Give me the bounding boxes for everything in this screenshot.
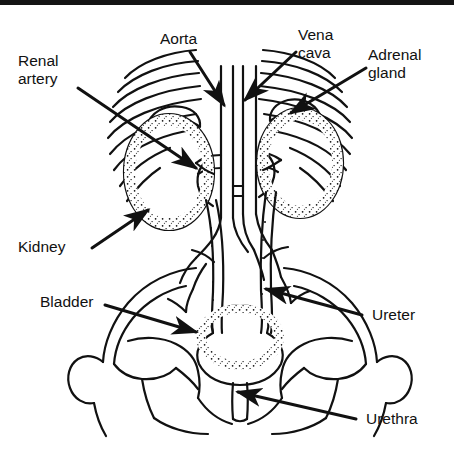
label-ureter: Ureter: [372, 306, 415, 323]
label-adrenal-gland-line1: Adrenal: [368, 46, 421, 63]
label-vena-cava-line1: Vena: [298, 26, 334, 43]
label-bladder: Bladder: [40, 293, 93, 310]
anatomy-drawing: Renal artery Aorta Vena cava Adrenal gla…: [0, 0, 454, 459]
label-adrenal-gland-line2: gland: [368, 64, 406, 81]
label-aorta: Aorta: [160, 30, 197, 47]
label-urethra: Urethra: [366, 410, 418, 427]
label-renal-artery-line1: Renal: [18, 52, 59, 69]
urinary-system-figure: Renal artery Aorta Vena cava Adrenal gla…: [0, 0, 454, 459]
label-kidney: Kidney: [18, 238, 66, 255]
label-renal-artery-line2: artery: [18, 70, 58, 87]
label-vena-cava-line2: cava: [298, 44, 331, 61]
